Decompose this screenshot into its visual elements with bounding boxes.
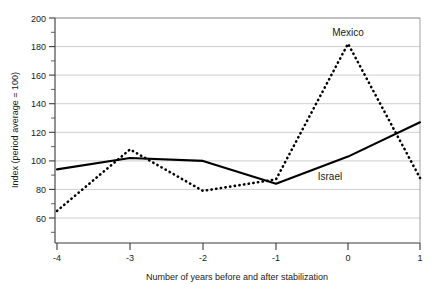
ytick-label-100: 100 xyxy=(31,156,46,166)
xtick-label-0: 0 xyxy=(345,253,350,263)
chart-background xyxy=(0,0,443,289)
ytick-label-120: 120 xyxy=(31,128,46,138)
line-chart: 200 180 160 140 120 100 80 60 -4 -3 -2 -… xyxy=(0,0,443,289)
ytick-label-200: 200 xyxy=(31,14,46,24)
x-axis-title: Number of years before and after stabili… xyxy=(146,272,328,282)
xtick-label--3: -3 xyxy=(126,253,134,263)
series-label-mexico: Mexico xyxy=(332,27,364,38)
ytick-label-80: 80 xyxy=(36,185,46,195)
ytick-label-180: 180 xyxy=(31,42,46,52)
xtick-label-1: 1 xyxy=(417,253,422,263)
ytick-label-60: 60 xyxy=(36,214,46,224)
ytick-label-160: 160 xyxy=(31,71,46,81)
ytick-label-140: 140 xyxy=(31,99,46,109)
series-label-israel: Israel xyxy=(318,171,342,182)
y-axis-title: Index (period average = 100) xyxy=(10,72,20,188)
chart-figure: 200 180 160 140 120 100 80 60 -4 -3 -2 -… xyxy=(0,0,443,289)
xtick-label--2: -2 xyxy=(199,253,207,263)
xtick-label--4: -4 xyxy=(53,253,61,263)
xtick-label--1: -1 xyxy=(272,253,280,263)
